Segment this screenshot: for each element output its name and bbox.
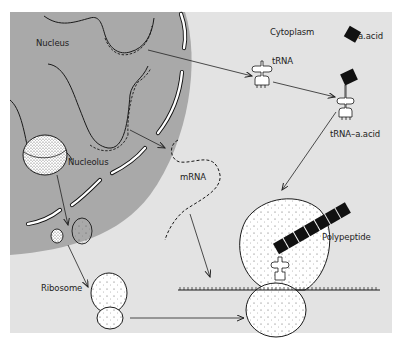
- nucleolus-label: Nucleolus: [68, 157, 109, 167]
- amino-acid-label: a.acid: [358, 31, 383, 41]
- ribosome-label: Ribosome: [41, 283, 82, 293]
- trna-aacid-label: tRNA–a.acid: [330, 129, 380, 139]
- nucleus-label: Nucleus: [36, 38, 69, 48]
- cytoplasm-label: Cytoplasm: [270, 27, 314, 37]
- nucleolus: [23, 135, 67, 175]
- trna-label: tRNA: [272, 56, 293, 66]
- protein-synthesis-diagram: Nucleus Nucleolus Cytoplasm a.acid tRNA …: [0, 0, 400, 351]
- polypeptide-label: Polypeptide: [322, 232, 371, 242]
- mrna-label: mRNA: [180, 172, 206, 182]
